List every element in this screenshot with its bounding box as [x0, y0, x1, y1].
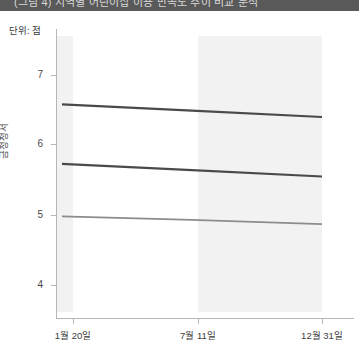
figure-title-text: (그림 4) 지역별 어린이집 이용 만족도 추이 비교 분석 — [14, 0, 258, 9]
figure-title-banner: (그림 4) 지역별 어린이집 이용 만족도 추이 비교 분석 — [0, 0, 359, 11]
series-line — [62, 104, 322, 117]
chart-figure: (그림 4) 지역별 어린이집 이용 만족도 추이 비교 분석 단위: 점 7 … — [0, 0, 359, 349]
series-line — [62, 216, 322, 224]
series-lines-layer — [0, 11, 359, 349]
series-line — [62, 164, 322, 177]
chart-canvas: 7 6 5 4 금정청서 1월 20일 7월 11일 12월 31일 — [0, 11, 359, 349]
